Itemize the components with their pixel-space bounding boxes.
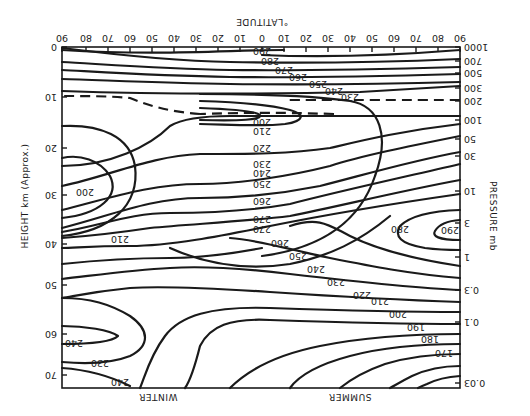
contour-label: 180	[421, 334, 439, 345]
contour-label: 260	[271, 238, 289, 249]
height-tick: 0	[51, 42, 57, 53]
pressure-tick: 50	[464, 134, 476, 145]
pressure-tick: 0.03	[464, 378, 485, 389]
contour-label: 250	[253, 179, 271, 190]
contour-label: 280	[391, 224, 409, 235]
contour-label: 250	[309, 79, 327, 90]
contour-label: 260	[289, 72, 307, 83]
contour-label: 290	[441, 225, 459, 236]
lat-tick: 20	[212, 33, 224, 44]
pressure-tick: 10	[464, 186, 476, 197]
pressure-tick: 30	[464, 151, 476, 162]
summer-label: SUMMER	[329, 392, 372, 402]
pressure-axis: 1000 700 500 300 200 100 50 30 10 3 1 0.…	[455, 42, 498, 389]
lat-tick: 30	[322, 33, 334, 44]
temperature-cross-section-figure: 90 80 70 60 50 40 30 20 10 0 10 20 30 40…	[0, 0, 530, 416]
winter-label: WINTER	[139, 392, 178, 402]
contour-label: 200	[76, 187, 94, 198]
lat-tick: 80	[80, 33, 92, 44]
pressure-tick: 300	[464, 83, 482, 94]
pressure-tick: 1000	[464, 42, 488, 53]
pressure-tick: 500	[464, 68, 482, 79]
lat-tick: 60	[124, 33, 136, 44]
contour-label: 220	[353, 290, 371, 301]
lat-tick: 50	[366, 33, 378, 44]
contour-label: 220	[253, 143, 271, 154]
pressure-tick: 200	[464, 96, 482, 107]
pressure-axis-label: PRESSURE mb	[488, 181, 498, 251]
height-axis-label: HEIGHT km (Approx.)	[20, 143, 30, 248]
lat-tick: 70	[410, 33, 422, 44]
lat-tick: 30	[190, 33, 202, 44]
lat-tick: 60	[388, 33, 400, 44]
lat-tick: 50	[146, 33, 158, 44]
pressure-tick: 0.1	[464, 317, 479, 328]
contour-label: 210	[111, 234, 129, 245]
pressure-tick: 100	[464, 115, 482, 126]
lat-tick: 80	[432, 33, 444, 44]
contour-label: 250	[289, 251, 307, 262]
contour-label: 230	[341, 92, 359, 103]
contour-label: 210	[371, 296, 389, 307]
contour-label: 240	[65, 338, 83, 349]
height-tick: 40	[45, 239, 57, 250]
contour-label: 210	[253, 126, 271, 137]
height-tick: 10	[45, 92, 57, 103]
contour-label: 240	[325, 86, 343, 97]
pressure-tick: 0.3	[464, 285, 479, 296]
pressure-tick: 3	[464, 218, 470, 229]
contour-label: 190	[407, 322, 425, 333]
contour-label: 240	[307, 264, 325, 275]
lat-tick: 70	[102, 33, 114, 44]
lat-tick: 40	[344, 33, 356, 44]
pressure-tick: 700	[464, 56, 482, 67]
lat-tick: 0	[259, 33, 265, 44]
pressure-tick: 1	[464, 252, 470, 263]
height-tick: 30	[45, 190, 57, 201]
contour-label: 240	[111, 377, 129, 388]
height-tick: 70	[45, 370, 57, 381]
height-tick: 50	[45, 280, 57, 291]
lat-tick: 20	[300, 33, 312, 44]
height-axis: 0 10 20 30 40 50 60 70 HEIGHT km (Approx…	[20, 42, 67, 381]
height-tick: 60	[45, 329, 57, 340]
contour-label: 240	[253, 168, 271, 179]
lat-tick: 10	[234, 33, 246, 44]
lat-tick: 10	[278, 33, 290, 44]
contour-label: 290	[253, 46, 271, 57]
height-tick: 20	[45, 143, 57, 154]
latitude-axis-label: °LATITUDE	[236, 17, 289, 27]
lat-tick: 40	[168, 33, 180, 44]
contour-label: 230	[327, 277, 345, 288]
contour-label: 270	[253, 214, 271, 225]
contour-label: 200	[389, 309, 407, 320]
contour-label: 270	[253, 224, 271, 235]
contour-label: 260	[253, 196, 271, 207]
contour-label: 170	[435, 348, 453, 359]
contour-label: 230	[91, 358, 109, 369]
